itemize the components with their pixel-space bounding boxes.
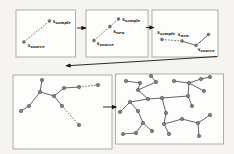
- tree-after-node: [124, 79, 127, 82]
- arrow-restart-loop: [66, 57, 217, 66]
- tree-after-node: [202, 89, 205, 92]
- point-x_sample: [161, 38, 164, 41]
- tree-after-node: [134, 131, 137, 134]
- tree-before-node: [27, 104, 30, 107]
- tree-before-node: [77, 85, 80, 88]
- point-x_new: [181, 40, 184, 43]
- tree-after-node: [160, 96, 163, 99]
- tree-after-node: [186, 94, 189, 97]
- point-x_source: [93, 39, 96, 42]
- tree-after-node: [121, 132, 124, 135]
- tree-after-node: [199, 77, 202, 80]
- tree-after-node: [138, 81, 141, 84]
- point-x_sample: [117, 18, 120, 21]
- tree-after-node: [150, 129, 153, 132]
- tree-after-node: [141, 121, 144, 124]
- tree-after-node: [197, 134, 200, 137]
- tree-before-node: [60, 104, 63, 107]
- point-x_sample: [48, 20, 51, 23]
- tree-after-node: [190, 104, 193, 107]
- point-x_source: [23, 41, 26, 44]
- tree-before-node: [77, 123, 80, 126]
- point-x_new: [109, 25, 112, 28]
- tree-after-node: [208, 75, 211, 78]
- tree-after-node: [136, 109, 139, 112]
- tree-before-node: [96, 83, 99, 86]
- tree-after-node: [136, 88, 139, 91]
- tree-after-node: [187, 81, 190, 84]
- tree-before-node: [38, 90, 41, 93]
- panel-step-1: [16, 10, 76, 57]
- tree-before-node: [62, 86, 65, 89]
- tree-after-node: [180, 117, 183, 120]
- sampling-diagram-figure: xsourcexsamplexsourcexnewxsamplexsamplex…: [0, 0, 234, 154]
- tree-after-node: [172, 79, 175, 82]
- tree-after-node: [208, 113, 211, 116]
- tree-before-node: [40, 78, 43, 81]
- tree-before-node: [52, 94, 55, 97]
- point-tree-point: [207, 33, 210, 36]
- tree-before-node: [19, 109, 22, 112]
- tree-after-node: [146, 97, 149, 100]
- tree-after-node: [149, 74, 152, 77]
- figure-canvas: xsourcexsamplexsourcexnewxsamplexsamplex…: [0, 0, 234, 154]
- tree-after-node: [196, 121, 199, 124]
- tree-after-node: [164, 111, 167, 114]
- tree-after-node: [128, 100, 131, 103]
- tree-after-node: [162, 122, 165, 125]
- tree-after-node: [154, 80, 157, 83]
- tree-after-node: [167, 132, 170, 135]
- tree-after-node: [118, 110, 121, 113]
